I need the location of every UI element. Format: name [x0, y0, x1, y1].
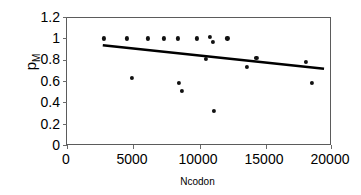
y-tick-label: 0.4	[18, 95, 60, 109]
x-tick-label: 15000	[234, 152, 294, 166]
x-axis-title: Ncodon	[0, 176, 361, 187]
data-point	[310, 81, 314, 85]
data-point	[211, 39, 215, 43]
y-tick-label: 0.8	[18, 52, 60, 66]
x-tick-label: 5000	[102, 152, 162, 166]
x-axis-tick	[133, 145, 134, 149]
data-point	[162, 36, 166, 40]
data-point	[195, 36, 199, 40]
y-tick-label: 1	[18, 31, 60, 45]
y-axis-tick	[63, 102, 67, 103]
data-point	[130, 76, 134, 80]
chart-figure: pM 1.2 1 0.8 0.6 0.4 0.2 0 0 5000 10000 …	[0, 0, 361, 195]
data-point	[245, 65, 249, 69]
y-axis-tick	[63, 81, 67, 82]
y-axis-tick	[63, 124, 67, 125]
data-point	[254, 56, 258, 60]
data-point	[303, 60, 307, 64]
plot-area	[66, 17, 331, 145]
data-point	[102, 36, 106, 40]
x-tick-label: 10000	[168, 152, 228, 166]
x-axis-tick	[200, 145, 201, 149]
y-tick-label: 0.6	[18, 74, 60, 88]
data-point	[146, 36, 150, 40]
plot-frame-right	[330, 17, 331, 144]
x-tick-label: 0	[36, 152, 96, 166]
y-tick-label: 0.2	[18, 117, 60, 131]
data-point	[177, 81, 181, 85]
data-point	[125, 36, 129, 40]
x-axis-tick	[266, 145, 267, 149]
y-axis-tick	[63, 17, 67, 18]
y-tick-label: 0	[18, 138, 60, 152]
y-tick-label: 1.2	[18, 10, 60, 24]
data-point	[176, 36, 180, 40]
data-point	[204, 57, 208, 61]
x-tick-label: 20000	[300, 152, 360, 166]
x-axis-tick	[67, 145, 68, 149]
plot-frame-top	[67, 17, 331, 18]
trend-line	[67, 17, 332, 145]
data-point	[180, 89, 184, 93]
x-axis-title-text: Ncodon	[180, 176, 214, 187]
x-axis-tick	[331, 145, 332, 149]
data-point	[212, 109, 216, 113]
trend-line-segment	[103, 45, 324, 68]
data-point	[225, 36, 229, 40]
y-axis-tick	[63, 38, 67, 39]
y-axis-tick	[63, 60, 67, 61]
